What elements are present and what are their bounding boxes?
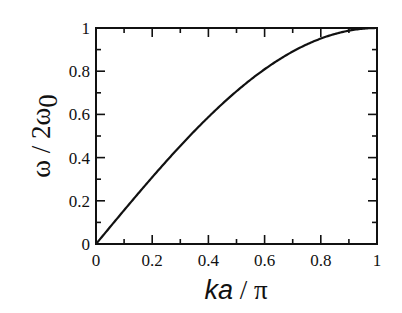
x-axis-label: ka / π (204, 275, 268, 305)
plot-frame (96, 28, 377, 244)
x-tick-label: 1 (373, 251, 382, 270)
chart: 0 0.2 0.4 0.6 0.8 1 0 0.2 0.4 0.6 0.8 1 … (0, 0, 402, 313)
y-tick-label: 0.8 (69, 62, 90, 81)
x-tick-label: 0.4 (198, 251, 220, 270)
y-tick-label: 1 (82, 19, 91, 38)
ticks (96, 28, 377, 244)
y-axis-label: ω / 2ω0 (26, 94, 63, 178)
x-tick-label: 0.6 (254, 251, 275, 270)
x-tick-label: 0 (92, 251, 101, 270)
x-tick-label: 0.2 (142, 251, 163, 270)
svg-text:ω / 2ω0: ω / 2ω0 (26, 94, 63, 178)
y-tick-label: 0 (82, 235, 91, 254)
y-tick-label: 0.4 (69, 149, 91, 168)
y-tick-label: 0.6 (69, 105, 90, 124)
x-tick-label: 0.8 (310, 251, 331, 270)
x-axis-label-ka: ka (204, 275, 233, 305)
y-axis-label-subscript: 0 (33, 94, 63, 108)
y-tick-label: 0.2 (69, 192, 90, 211)
x-axis-label-rest: / π (233, 275, 268, 305)
y-axis-label-main: ω / 2ω (26, 108, 56, 178)
dispersion-curve (96, 28, 377, 244)
